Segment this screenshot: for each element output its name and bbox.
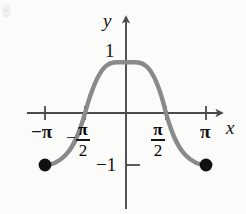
- x-tick-label-pi-over-2: π 2: [151, 121, 165, 159]
- x-tick-label-pi: π: [200, 122, 210, 141]
- x-axis-label: x: [226, 118, 234, 137]
- endpoint-dot-right: [200, 159, 213, 172]
- x-tick-label-minus-pi-over-2-sign: −: [66, 128, 76, 148]
- endpoint-dot-left: [39, 159, 52, 172]
- plot-canvas: [0, 0, 246, 214]
- x-tick-label-minus-pi: −π: [31, 122, 52, 141]
- x-tick-label-minus-pi-over-2: π 2: [76, 121, 90, 159]
- fraction-numerator: π: [77, 121, 88, 139]
- fraction-denominator: 2: [78, 141, 89, 159]
- y-axis-label: y: [103, 11, 111, 30]
- y-tick-label-minus-one: −1: [96, 155, 116, 174]
- fraction-denominator: 2: [153, 141, 164, 159]
- y-tick-label-one: 1: [105, 41, 115, 60]
- cosine-graph-figure: y x 1 −1 −π − π 2 π 2 π: [0, 0, 246, 214]
- fraction-numerator: π: [152, 121, 163, 139]
